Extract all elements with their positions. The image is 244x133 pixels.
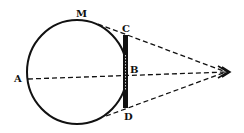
circle xyxy=(27,20,127,124)
label-C: C xyxy=(122,23,130,34)
label-D: D xyxy=(124,111,133,122)
line-M-eye xyxy=(98,24,226,72)
label-A: A xyxy=(13,73,22,84)
optics-diagram: A M C B D xyxy=(0,0,244,133)
label-M: M xyxy=(76,8,87,19)
label-B: B xyxy=(130,64,138,75)
